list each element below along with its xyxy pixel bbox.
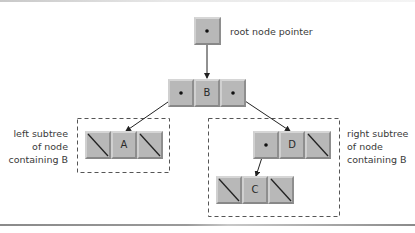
node-c-left-null bbox=[216, 176, 242, 204]
node-b-right-pointer bbox=[220, 79, 246, 107]
node-a-left-null bbox=[85, 131, 111, 159]
node-c-right-null bbox=[268, 176, 294, 204]
left-subtree-label: left subtree of node containing B bbox=[0, 127, 68, 166]
root-pointer-label: root node pointer bbox=[230, 25, 313, 38]
bottom-rule bbox=[0, 224, 415, 226]
node-a-value: A bbox=[111, 131, 137, 159]
right-subtree-label: right subtree of node containing B bbox=[347, 127, 415, 166]
node-b-value: B bbox=[194, 79, 220, 107]
node-d-left-pointer bbox=[253, 131, 279, 159]
node-a-right-null bbox=[137, 131, 163, 159]
root-pointer-cell bbox=[194, 17, 221, 45]
node-b-left-pointer bbox=[168, 79, 194, 107]
node-c-value: C bbox=[242, 176, 268, 204]
node-d-value: D bbox=[279, 131, 305, 159]
node-d-right-null bbox=[305, 131, 331, 159]
